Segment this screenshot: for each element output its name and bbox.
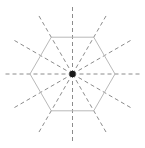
figure-canvas [0,0,145,148]
diagram-svg [0,0,145,148]
center-point-dot [69,71,75,77]
